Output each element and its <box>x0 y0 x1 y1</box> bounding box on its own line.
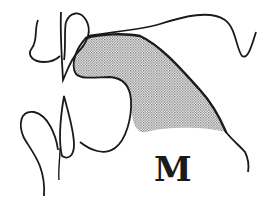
jaw-line <box>226 132 248 172</box>
articulation-diagram <box>0 0 268 209</box>
figure-label: M <box>154 152 192 186</box>
lower-lip-inner <box>59 148 60 180</box>
upper-lip <box>30 20 60 62</box>
tongue-contact-shading <box>73 35 226 133</box>
lower-incisor <box>60 96 74 158</box>
lower-lip <box>21 112 58 196</box>
